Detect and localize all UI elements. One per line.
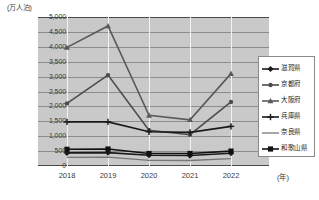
data-point-cross: [267, 114, 273, 120]
y-tick-label: 1,000: [49, 132, 66, 139]
legend-item-1[interactable]: 京都府: [261, 76, 301, 90]
plot-area: [38, 17, 269, 166]
legend-marker-square-icon: [261, 141, 280, 153]
gridline-h: [38, 151, 269, 152]
y-tick-label: 4,500: [49, 28, 66, 35]
x-tick-label: 2019: [88, 171, 128, 180]
legend-item-5[interactable]: 和歌山県: [261, 140, 308, 154]
y-tick-label: 3,000: [49, 73, 66, 80]
y-tick-label: 4,000: [49, 43, 66, 50]
data-point-square: [268, 146, 273, 151]
legend-item-0[interactable]: 滋賀県: [261, 60, 301, 74]
gridline-h: [38, 121, 269, 122]
gridline-h: [38, 62, 269, 63]
x-tick-label: 2018: [47, 171, 87, 180]
plot-top-border: [38, 17, 269, 18]
y-axis-unit-label: (万人泊): [7, 2, 32, 12]
y-tick-label: 500: [55, 147, 66, 154]
legend-marker-diamond-icon: [261, 61, 280, 73]
gridline-v: [190, 17, 191, 166]
legend-item-2[interactable]: 大阪府: [261, 92, 301, 106]
legend-item-label: 京都府: [281, 78, 301, 88]
legend-item-label: 滋賀県: [281, 62, 301, 72]
y-tick-label: 0: [62, 162, 66, 169]
gridline-h: [38, 92, 269, 93]
legend-marker-triangle-icon: [261, 93, 280, 105]
legend-marker-cross-icon: [261, 109, 280, 121]
x-tick-label: 2022: [211, 171, 251, 180]
gridline-v: [149, 17, 150, 166]
legend-item-label: 大阪府: [281, 94, 301, 104]
y-tick-label: 1,500: [49, 117, 66, 124]
y-tick-label: 3,500: [49, 58, 66, 65]
y-tick-label: 2,500: [49, 88, 66, 95]
legend-item-4[interactable]: 奈良県: [261, 124, 301, 138]
gridline-h: [38, 136, 269, 137]
gridline-v: [231, 17, 232, 166]
legend-marker-none-icon: [261, 125, 280, 137]
gridline-h: [38, 32, 269, 33]
y-tick-label: 5,000: [49, 13, 66, 20]
gridline-h: [38, 106, 269, 107]
legend-item-label: 兵庫県: [281, 110, 301, 120]
chart-figure: (万人泊) 05001,0001,5002,0002,5003,0003,500…: [0, 0, 319, 200]
gridline-h: [38, 77, 269, 78]
gridline-h: [38, 47, 269, 48]
gridline-v: [67, 17, 68, 166]
y-tick-label: 2,000: [49, 102, 66, 109]
legend-item-3[interactable]: 兵庫県: [261, 108, 301, 122]
x-tick-label: 2020: [129, 171, 169, 180]
data-point-diamond: [267, 66, 273, 72]
data-point-circle: [268, 83, 272, 87]
x-tick-label: 2021: [170, 171, 210, 180]
legend-item-label: 和歌山県: [281, 142, 308, 152]
x-axis-unit-label: (年): [277, 171, 289, 182]
chart-legend: 滋賀県京都府大阪府兵庫県奈良県和歌山県: [258, 56, 315, 157]
legend-item-label: 奈良県: [281, 126, 301, 136]
x-axis-line: [38, 165, 269, 166]
legend-marker-circle-icon: [261, 77, 280, 89]
gridline-v: [108, 17, 109, 166]
